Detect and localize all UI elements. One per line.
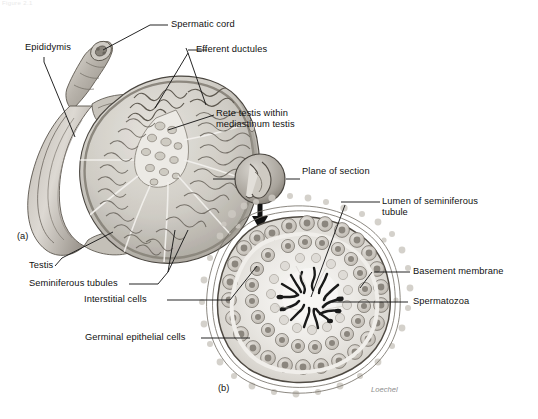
label-testis: Testis	[29, 260, 53, 271]
label-epididymis: Epididymis	[25, 42, 71, 53]
label-plane-of-section: Plane of section	[302, 166, 370, 177]
figure-canvas: Figure 2.1	[0, 0, 538, 419]
panel-label-a: (a)	[17, 231, 28, 241]
label-spermatozoa: Spermatozoa	[413, 296, 469, 307]
label-rete-testis-line2: mediastinum testis	[216, 119, 295, 130]
label-lumen-line2: tubule	[382, 207, 408, 218]
label-rete-testis-line1: Rete testis within	[216, 108, 288, 119]
panel-a-testis-illustration	[28, 37, 260, 263]
anatomical-illustration	[0, 0, 538, 419]
label-germinal-epithelial-cells: Germinal epithelial cells	[85, 332, 186, 343]
label-basement-membrane: Basement membrane	[413, 266, 503, 277]
artist-signature: Loechel	[371, 385, 398, 394]
label-efferent-ductules: Efferent ductules	[196, 44, 267, 55]
label-lumen-line1: Lumen of seminiferous	[382, 196, 478, 207]
label-spermatic-cord: Spermatic cord	[171, 19, 235, 30]
panel-label-b: (b)	[218, 383, 229, 393]
label-seminiferous-tubules: Seminiferous tubules	[29, 278, 118, 289]
label-interstitial-cells: Interstitial cells	[84, 294, 147, 305]
